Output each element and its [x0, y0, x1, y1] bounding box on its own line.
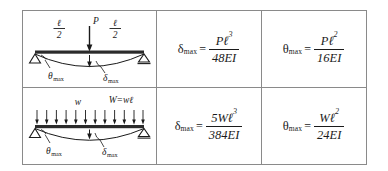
slope-formula-udl: θmax = Wℓ2 24EI: [283, 110, 346, 143]
equals-sign: =: [199, 43, 206, 55]
theta-leader-line: [45, 60, 50, 68]
total-load-label: W=wℓ: [109, 95, 134, 105]
theta-max-label: θmax: [48, 71, 65, 82]
fraction-numerator: 5Wℓ3: [208, 110, 240, 127]
span-right-denominator: 2: [113, 30, 118, 40]
equals-sign: =: [304, 43, 311, 55]
span-left-numerator: ℓ: [57, 18, 61, 28]
deflection-formula-point-load-cell: δmax = Pℓ3 48EI: [157, 11, 262, 88]
delta-leader-arc: [95, 133, 100, 140]
table-row: w W=wℓ: [23, 88, 367, 165]
fraction-numerator: Pℓ2: [318, 33, 341, 50]
delta-max-label: δmax: [103, 73, 119, 84]
beam-diagram-point-load-cell: P ℓ 2 ℓ 2: [23, 11, 157, 88]
fraction: Pℓ2 16EI: [314, 33, 344, 66]
fraction-denominator: 384EI: [206, 126, 243, 142]
distributed-load-arrows: [35, 110, 145, 125]
equals-sign: =: [304, 120, 311, 132]
slope-subscript: max: [289, 48, 303, 56]
slope-subscript: max: [289, 125, 303, 133]
fraction-denominator: 16EI: [314, 49, 344, 65]
beam-diagram-point-load: P ℓ 2 ℓ 2: [23, 11, 156, 87]
distributed-load-label: w: [75, 97, 82, 107]
fraction-numerator: Pℓ3: [213, 33, 236, 50]
equals-sign: =: [196, 120, 203, 132]
delta-leader-line: [100, 140, 104, 147]
deflection-subscript: max: [184, 48, 198, 56]
fraction: 5Wℓ3 384EI: [206, 110, 243, 143]
span-left-denominator: 2: [57, 30, 62, 40]
theta-max-label: θmax: [46, 146, 63, 157]
point-load-arrow-head: [87, 45, 93, 52]
fraction: Pℓ3 48EI: [209, 33, 239, 66]
fraction-denominator: 24EI: [314, 126, 344, 142]
span-right-numerator: ℓ: [113, 18, 117, 28]
beam-diagram-udl-cell: w W=wℓ: [23, 88, 157, 165]
fraction-numerator: Wℓ2: [316, 110, 342, 127]
table-row: P ℓ 2 ℓ 2: [23, 11, 367, 88]
slope-formula-udl-cell: θmax = Wℓ2 24EI: [262, 88, 367, 165]
beam-diagram-udl: w W=wℓ: [23, 88, 156, 164]
figure-canvas: P ℓ 2 ℓ 2: [0, 0, 388, 171]
beam-formula-table: P ℓ 2 ℓ 2: [22, 10, 367, 165]
slope-formula-point-load-cell: θmax = Pℓ2 16EI: [262, 11, 367, 88]
fraction-denominator: 48EI: [209, 49, 239, 65]
theta-leader-line: [45, 135, 50, 144]
slope-formula-point-load: θmax = Pℓ2 16EI: [283, 33, 346, 66]
deflection-formula-udl-cell: δmax = 5Wℓ3 384EI: [157, 88, 262, 165]
delta-max-label: δmax: [102, 147, 118, 158]
deflection-subscript: max: [181, 125, 195, 133]
deflection-formula-udl: δmax = 5Wℓ3 384EI: [175, 110, 244, 143]
deflection-arrow-head: [87, 134, 92, 140]
deflection-formula-point-load: δmax = Pℓ3 48EI: [178, 33, 241, 66]
beam-member: [35, 125, 144, 128]
point-load-label: P: [92, 16, 99, 26]
fraction: Wℓ2 24EI: [314, 110, 344, 143]
